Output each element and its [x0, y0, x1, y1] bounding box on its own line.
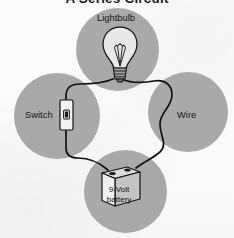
label-battery-line2: battery [101, 195, 137, 205]
label-lightbulb: Lightbulb [97, 13, 135, 23]
label-switch: Switch [25, 110, 53, 120]
label-battery: 9-Volt battery [101, 185, 137, 204]
figure-title: A Series Circuit [0, 0, 234, 6]
figure-title-clip: A Series Circuit [0, 0, 234, 7]
lightbulb-icon [100, 25, 140, 83]
label-battery-line1: 9-Volt [101, 185, 137, 195]
series-circuit-figure: A Series Circuit Lightbulb Switch Wire [0, 0, 234, 238]
switch-icon[interactable] [59, 99, 74, 131]
label-wire: Wire [177, 110, 196, 120]
